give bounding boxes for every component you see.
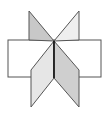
top-right-triangle-face bbox=[54, 11, 79, 41]
top-left-triangle-face bbox=[29, 11, 54, 41]
geometric-figure bbox=[0, 0, 112, 115]
diagram-canvas bbox=[0, 0, 112, 115]
